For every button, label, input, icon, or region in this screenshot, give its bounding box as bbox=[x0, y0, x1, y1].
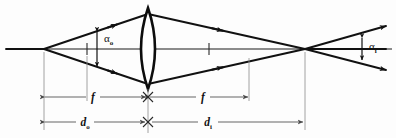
ray-diagram-canvas: αo αi f f do di bbox=[0, 0, 396, 138]
ray-upper-incident-arrow bbox=[108, 24, 117, 27]
converging-lens bbox=[141, 8, 155, 89]
ray-lower-refracted bbox=[148, 49, 305, 84]
ray-upper-incident bbox=[44, 14, 148, 49]
angle-object-subscript: o bbox=[110, 39, 114, 47]
image-distance-label: di bbox=[204, 116, 212, 131]
ray-lower-refracted-arrow bbox=[212, 67, 223, 70]
focal-right-label: f bbox=[201, 91, 206, 104]
ray-upper-refracted-arrow bbox=[212, 28, 223, 31]
optics-diagram-figure: αo αi f f do di bbox=[0, 0, 396, 138]
ray-lower-incident-arrow bbox=[108, 71, 117, 74]
ray-lower-incident bbox=[44, 49, 148, 84]
angle-image-label: αi bbox=[369, 40, 377, 55]
object-distance-subscript: o bbox=[86, 123, 90, 131]
ray-upper-refracted bbox=[148, 14, 305, 49]
angle-image-subscript: i bbox=[375, 47, 377, 55]
object-distance-label: do bbox=[80, 116, 90, 131]
angle-object-label: αo bbox=[104, 32, 114, 47]
image-distance-subscript: i bbox=[210, 123, 212, 131]
focal-left-label: f bbox=[91, 91, 96, 104]
